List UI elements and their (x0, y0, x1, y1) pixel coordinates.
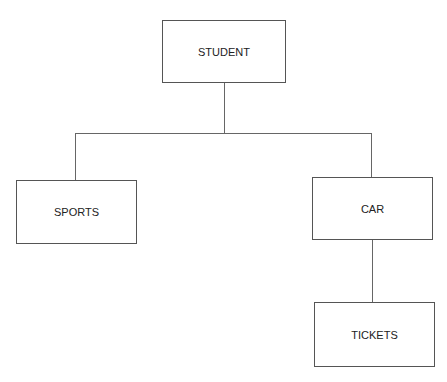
node-student: STUDENT (162, 20, 286, 83)
connector-to-sports (75, 133, 76, 180)
node-sports: SPORTS (16, 180, 137, 244)
node-car-label: CAR (361, 203, 384, 215)
node-tickets: TICKETS (314, 302, 435, 367)
connector-student-down (224, 83, 225, 133)
node-car: CAR (312, 177, 433, 240)
node-tickets-label: TICKETS (351, 329, 397, 341)
connector-horizontal (75, 133, 372, 134)
node-student-label: STUDENT (198, 46, 250, 58)
connector-car-to-tickets (372, 240, 373, 302)
node-sports-label: SPORTS (54, 206, 99, 218)
connector-to-car (371, 133, 372, 178)
